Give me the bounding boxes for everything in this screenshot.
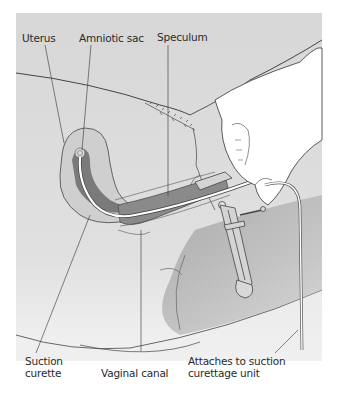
label-attaches-line1: Attaches to suction	[188, 355, 285, 367]
illustration	[0, 0, 339, 395]
label-speculum: Speculum	[157, 31, 207, 43]
amniotic-sac	[75, 148, 85, 158]
label-suction-curette-line1: Suction	[25, 355, 63, 367]
label-vaginal-canal: Vaginal canal	[101, 367, 168, 379]
label-suction-curette: Suction curette	[25, 355, 63, 379]
label-amniotic-sac: Amniotic sac	[79, 32, 144, 44]
label-attaches-line2: curettage unit	[188, 367, 285, 379]
label-uterus: Uterus	[22, 32, 56, 44]
suction-curettage-diagram: Uterus Amniotic sac Speculum Suction cur…	[0, 0, 339, 395]
label-suction-curette-line2: curette	[25, 367, 63, 379]
label-attaches-to-suction: Attaches to suction curettage unit	[188, 355, 285, 379]
